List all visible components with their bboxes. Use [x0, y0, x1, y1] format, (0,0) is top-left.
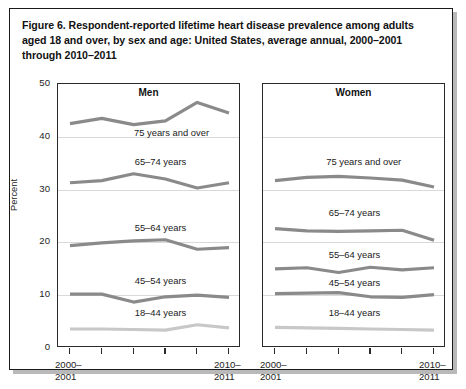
x-tick-label-line1: 2010– [419, 359, 446, 371]
series-line [70, 240, 229, 250]
series-line [70, 325, 229, 330]
x-tick-women-5 [433, 348, 434, 354]
panel-women: Women75 years and over65–74 years55–64 y… [262, 83, 445, 347]
series-label: 45–54 years [69, 275, 240, 286]
series-line [275, 293, 434, 298]
x-tick-men-0 [69, 348, 70, 354]
series-line [70, 102, 229, 124]
y-tick-label-50: 50 [28, 77, 50, 88]
x-tick-label-line1: 2010– [214, 359, 241, 371]
x-tick-women-1 [306, 348, 307, 354]
x-tick-label-last-men: 2010–2011 [214, 359, 241, 383]
y-tick-label-0: 0 [28, 341, 50, 352]
x-tick-men-5 [228, 348, 229, 354]
x-tick-label-first-men: 2000–2001 [55, 359, 82, 383]
series-line [70, 294, 229, 302]
y-tick-label-40: 40 [28, 130, 50, 141]
y-tick-label-20: 20 [28, 235, 50, 246]
series-line [70, 174, 229, 188]
series-line [275, 267, 434, 272]
x-tick-label-line2: 2011 [419, 371, 446, 383]
x-tick-women-2 [338, 348, 339, 354]
x-tick-label-line2: 2001 [55, 371, 82, 383]
series-label: 18–44 years [263, 307, 445, 318]
y-tick-label-30: 30 [28, 183, 50, 194]
x-tick-label-line1: 2000– [55, 359, 82, 371]
x-tick-label-first-women: 2000–2001 [260, 359, 287, 383]
x-tick-women-4 [401, 348, 402, 354]
x-tick-women-0 [274, 348, 275, 354]
x-tick-men-4 [196, 348, 197, 354]
x-tick-women-3 [369, 348, 370, 354]
x-tick-men-3 [164, 348, 165, 354]
x-tick-label-line2: 2001 [260, 371, 287, 383]
series-label: 65–74 years [263, 207, 445, 218]
series-label: 55–64 years [69, 222, 240, 233]
figure-title: Figure 6. Respondent-reported lifetime h… [22, 18, 440, 63]
series-line [275, 229, 434, 241]
series-label: 45–54 years [263, 277, 445, 288]
frame-shadow-right [453, 12, 457, 374]
x-tick-label-line2: 2011 [214, 371, 241, 383]
y-axis-label: Percent [9, 160, 19, 230]
series-label: 75 years and over [80, 127, 240, 138]
panel-men: Men75 years and over65–74 years55–64 yea… [57, 83, 240, 347]
series-line [275, 176, 434, 187]
x-tick-men-2 [133, 348, 134, 354]
y-tick-label-10: 10 [28, 288, 50, 299]
x-tick-label-line1: 2000– [260, 359, 287, 371]
x-tick-label-last-women: 2010–2011 [419, 359, 446, 383]
series-line [275, 327, 434, 330]
series-label: 18–44 years [69, 307, 240, 318]
series-label: 65–74 years [69, 156, 240, 167]
figure-container: Figure 6. Respondent-reported lifetime h… [0, 0, 466, 389]
x-tick-men-1 [101, 348, 102, 354]
series-label: 75 years and over [272, 156, 445, 167]
series-label: 55–64 years [263, 249, 445, 260]
